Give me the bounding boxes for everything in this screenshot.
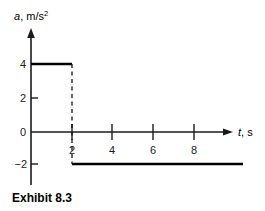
x-axis-arrowhead-icon	[223, 128, 233, 135]
y-axis	[27, 28, 35, 185]
y-axis-title-unit: , m/s	[20, 10, 44, 22]
y-tick-label-neg2: −2	[14, 158, 27, 170]
exhibit-figure: 4 2 0 −2 2 4 6 8 a, m/s2 t, s Exhibit 8.…	[0, 0, 265, 211]
x-axis-title: t, s	[238, 126, 253, 138]
y-tick-label-4: 4	[20, 58, 26, 70]
y-axis-title: a, m/s2	[14, 9, 48, 22]
x-axis	[31, 128, 233, 135]
y-tick-label-0: 0	[20, 126, 26, 138]
y-axis-ticks	[31, 64, 38, 164]
y-axis-title-exponent: 2	[44, 9, 48, 18]
acceleration-time-plot: 4 2 0 −2 2 4 6 8 a, m/s2 t, s Exhibit 8.…	[0, 0, 265, 211]
x-axis-title-unit: , s	[241, 126, 253, 138]
y-tick-label-2: 2	[20, 92, 26, 104]
x-tick-label-8: 8	[191, 144, 197, 156]
x-tick-label-4: 4	[109, 144, 115, 156]
figure-caption: Exhibit 8.3	[12, 191, 72, 205]
x-tick-label-2: 2	[69, 144, 75, 156]
x-tick-label-6: 6	[150, 144, 156, 156]
y-axis-arrowhead-icon	[27, 28, 35, 38]
